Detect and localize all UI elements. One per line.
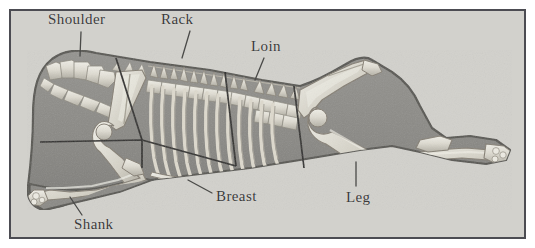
label-loin: Loin [251,38,281,55]
label-rack: Rack [161,11,193,28]
label-breast: Breast [216,188,257,205]
label-leg: Leg [346,189,371,206]
figure-canvas: Shoulder Rack Loin Breast Shank Leg [0,0,535,248]
label-shank: Shank [74,216,114,233]
label-shoulder: Shoulder [48,11,105,28]
